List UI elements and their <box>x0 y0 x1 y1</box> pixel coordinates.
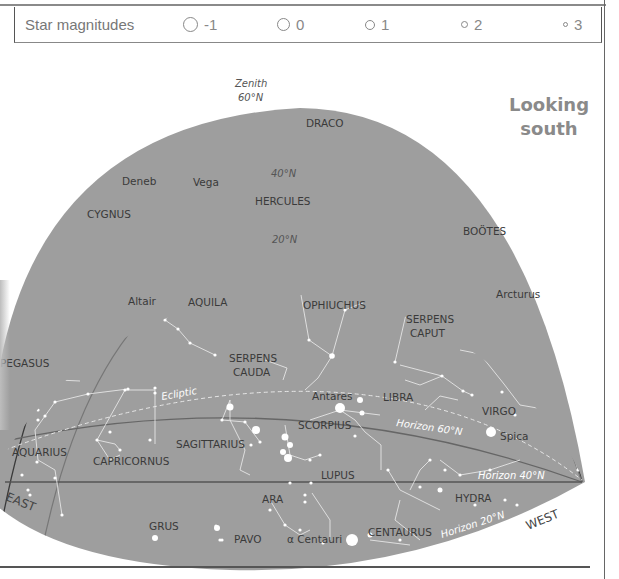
constellation-centaurus: CENTAURUS <box>368 526 432 538</box>
constellation-grus: GRUS <box>149 520 179 532</box>
constellation-ophiuchus: OPHIUCHUS <box>303 299 366 311</box>
constellation-lupus: LUPUS <box>321 469 355 481</box>
star-deneb: Deneb <box>122 175 157 187</box>
zenith-lat-label: 60°N <box>238 92 264 103</box>
star-altair: Altair <box>128 295 157 307</box>
star-vega: Vega <box>193 176 219 188</box>
bottom-rule <box>0 566 590 568</box>
west-label: WEST <box>524 507 562 533</box>
right-rule <box>604 0 605 579</box>
constellation-serpens-caput-1: SERPENS <box>406 313 454 325</box>
zenith-label: Zenith <box>234 78 267 89</box>
constellation-bootes: BOÖTES <box>463 225 507 237</box>
constellation-sagittarius: SAGITTARIUS <box>176 438 245 450</box>
constellation-cygnus: CYGNUS <box>87 208 131 220</box>
constellation-scorpius: SCORPIUS <box>298 419 352 431</box>
page-fold-shadow <box>0 280 10 430</box>
star-antares: Antares <box>312 390 352 402</box>
constellation-hercules: HERCULES <box>255 195 311 207</box>
constellation-draco: DRACO <box>306 117 344 129</box>
chart-title: Looking south <box>494 93 604 141</box>
constellation-hydra: HYDRA <box>455 492 492 504</box>
constellation-aquila: AQUILA <box>188 296 228 308</box>
constellation-aquarius: AQUARIUS <box>12 446 67 458</box>
horizon-40-label: Horizon 40°N <box>478 470 545 481</box>
constellation-serpens-caput-2: CAPUT <box>410 327 446 339</box>
lat-20-label: 20°N <box>272 234 298 245</box>
constellation-serpens-cauda-1: SERPENS <box>229 352 277 364</box>
constellation-libra: LIBRA <box>383 391 414 403</box>
sky-chart: Zenith 60°N 40°N 20°N Ecliptic Horizon 6… <box>0 0 619 579</box>
constellation-serpens-cauda-2: CAUDA <box>233 366 271 378</box>
star-spica: Spica <box>500 430 528 442</box>
star-alpha-centauri: α Centauri <box>287 533 342 545</box>
lat-40-label: 40°N <box>271 168 297 179</box>
constellation-virgo: VIRGO <box>482 405 516 417</box>
constellation-pavo: PAVO <box>234 533 261 545</box>
constellation-ara: ARA <box>262 493 284 505</box>
constellation-capricornus: CAPRICORNUS <box>93 455 170 467</box>
star-arcturus: Arcturus <box>496 288 540 300</box>
